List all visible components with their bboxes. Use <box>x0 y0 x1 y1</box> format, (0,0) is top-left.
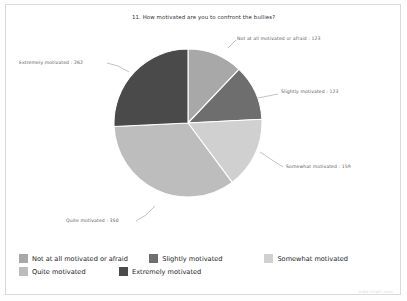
legend-item-not-at-all-motivated-or-afraid[interactable]: Not at all motivated or afraid <box>19 254 137 263</box>
slice-label-slightly-motivated: Slightly motivated : 123 <box>281 89 339 94</box>
watermark: mdu-chart.com <box>358 289 393 294</box>
legend-item-somewhat-motivated[interactable]: Somewhat motivated <box>264 254 377 263</box>
pie-chart-figure: 11. How motivated are you to confront th… <box>0 0 407 301</box>
legend-label-not-at-all: Not at all motivated or afraid <box>32 255 128 263</box>
slice-label-somewhat-motivated: Somewhat motivated : 159 <box>286 164 351 169</box>
slice-label-not-at-all-motivated-or-afraid: Not at all motivated or afraid : 123 <box>237 36 321 41</box>
chart-legend: Not at all motivated or afraid Slightly … <box>19 252 389 278</box>
leader-line-slightly <box>258 94 278 98</box>
legend-item-extremely-motivated[interactable]: Extremely motivated <box>119 267 259 276</box>
leader-line-extremely <box>107 63 129 72</box>
legend-label-quite: Quite motivated <box>32 268 86 276</box>
legend-label-somewhat: Somewhat motivated <box>277 255 348 263</box>
leader-line-quite <box>136 206 155 221</box>
legend-swatch-extremely <box>119 267 128 276</box>
legend-row-2: Quite motivated Extremely motivated <box>19 265 389 278</box>
legend-row-1: Not at all motivated or afraid Slightly … <box>19 252 389 265</box>
legend-swatch-quite <box>19 267 28 276</box>
slice-label-quite-motivated: Quite motivated : 350 <box>66 218 119 223</box>
legend-swatch-not-at-all <box>19 254 28 263</box>
legend-label-slightly: Slightly motivated <box>162 255 222 263</box>
legend-item-quite-motivated[interactable]: Quite motivated <box>19 267 107 276</box>
leader-line-somewhat <box>260 152 283 167</box>
legend-label-extremely: Extremely motivated <box>132 268 201 276</box>
legend-item-slightly-motivated[interactable]: Slightly motivated <box>149 254 252 263</box>
legend-swatch-somewhat <box>264 254 273 263</box>
leader-line-not-at-all <box>228 40 236 48</box>
slice-label-extremely-motivated: Extremely motivated : 262 <box>19 60 83 65</box>
legend-swatch-slightly <box>149 254 158 263</box>
